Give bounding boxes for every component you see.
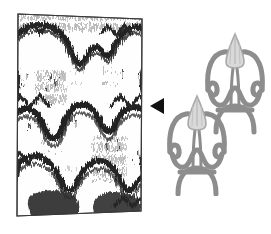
figure-container — [0, 0, 271, 234]
triangle-left-icon — [148, 96, 168, 116]
motif-svg — [166, 28, 266, 196]
triangle-left-svg — [148, 96, 168, 116]
textile-svg — [14, 11, 146, 219]
triangle-left-shape — [150, 98, 164, 114]
motif-line-drawing — [166, 28, 266, 196]
ikat-textile-photograph — [14, 11, 146, 219]
